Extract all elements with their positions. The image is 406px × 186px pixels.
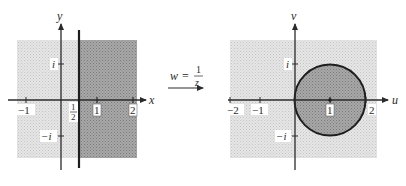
tick-label-y-i: i	[52, 58, 55, 70]
tick-label-u-neg2: −2	[227, 104, 239, 116]
mapping-annotation: w = 1 z	[168, 64, 203, 88]
v-axis-label: v	[291, 9, 297, 23]
tick-label-x-2: 2	[130, 104, 136, 116]
z-plane: y x −1 1 2 1 2 i −i	[8, 9, 155, 170]
tick-label-u-1: 1	[327, 104, 333, 116]
tick-label-y-neg-i: −i	[41, 130, 51, 142]
tick-label-x-neg1: −1	[18, 104, 30, 116]
disk-center-point	[328, 98, 332, 102]
tick-label-v-i: i	[286, 58, 289, 70]
tick-label-v-neg-i: −i	[276, 130, 286, 142]
tick-label-u-neg1: −1	[252, 104, 264, 116]
w-plane: v u −2 −1 1 2 i −i	[227, 9, 398, 170]
tick-label-x-1: 1	[94, 104, 100, 116]
conformal-map-figure: y x −1 1 2 1 2 i −i w = 1 z	[0, 0, 406, 186]
u-axis-label: u	[392, 93, 398, 107]
half-label-numerator: 1	[71, 102, 76, 112]
y-axis-label: y	[56, 9, 63, 23]
half-label-denominator: 2	[71, 112, 76, 122]
mapping-denominator: z	[194, 77, 199, 88]
x-axis-label: x	[148, 93, 155, 107]
tick-label-u-2: 2	[369, 104, 375, 116]
z-plane-shaded-half-plane	[79, 40, 137, 158]
mapping-numerator: 1	[196, 64, 201, 75]
mapping-lhs: w	[170, 69, 178, 83]
mapping-equals: =	[182, 69, 189, 83]
